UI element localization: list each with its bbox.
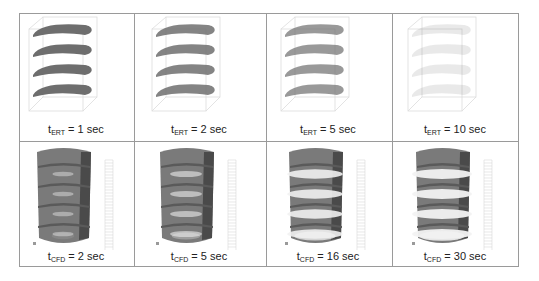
panel-caption: tCFD = 5 sec — [133, 250, 265, 263]
ert-panel: tERT = 2 sec — [133, 13, 265, 140]
ert-panel: tERT = 1 sec — [19, 13, 133, 140]
ert-panel: tERT = 5 sec — [265, 13, 391, 140]
ert-scene-icon — [19, 13, 133, 140]
panel-caption: tCFD = 30 sec — [391, 250, 519, 263]
panel-caption: tERT = 10 sec — [391, 123, 519, 136]
cfd-panel: tCFD = 2 sec — [19, 140, 133, 267]
ert-scene-icon — [391, 13, 519, 140]
cfd-scene-icon — [265, 140, 391, 267]
cfd-panel: tCFD = 5 sec — [133, 140, 265, 267]
panel-caption: tERT = 2 sec — [133, 123, 265, 136]
cfd-panel: tCFD = 30 sec — [391, 140, 519, 267]
panel-caption: tCFD = 2 sec — [19, 250, 133, 263]
cfd-scene-icon — [19, 140, 133, 267]
ert-scene-icon — [133, 13, 265, 140]
ert-scene-icon — [265, 13, 391, 140]
panel-caption: tCFD = 16 sec — [265, 250, 391, 263]
cfd-panel: tCFD = 16 sec — [265, 140, 391, 267]
ert-panel: tERT = 10 sec — [391, 13, 519, 140]
cfd-scene-icon — [391, 140, 519, 267]
cfd-scene-icon — [133, 140, 265, 267]
panel-caption: tERT = 1 sec — [19, 123, 133, 136]
panel-caption: tERT = 5 sec — [265, 123, 391, 136]
